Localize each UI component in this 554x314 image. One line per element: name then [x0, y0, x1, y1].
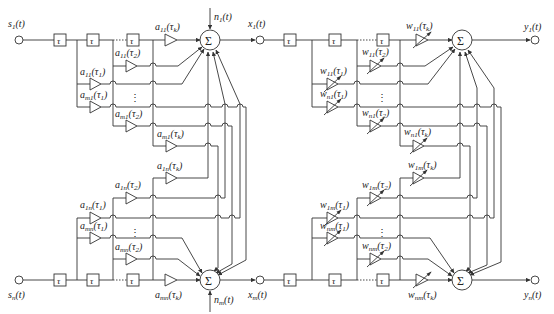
svg-text:wnm(τ1): wnm(τ1) — [320, 220, 350, 233]
svg-text:amn(τk): amn(τk) — [155, 289, 183, 302]
output-node-yn — [531, 276, 539, 284]
demixing-system: τ τ τ w11(τk) Σ y1(t) w11(τ2) w11(τ1) ⋮ — [284, 20, 542, 302]
gain-triangle — [165, 34, 177, 46]
svg-text:w11(τk): w11(τk) — [406, 20, 433, 33]
svg-text:Σ: Σ — [205, 274, 212, 288]
svg-text:sn(t): sn(t) — [8, 289, 26, 302]
svg-text:⋮: ⋮ — [377, 227, 387, 238]
mixing-system: s1(t) τ τ τ a11(τk) Σ n1(t) x1(t) a11(τ2… — [8, 8, 284, 312]
svg-text:Σ: Σ — [457, 34, 464, 48]
output-node-xm — [256, 276, 264, 284]
svg-text:am1(τk): am1(τk) — [157, 128, 185, 141]
svg-text:w11(τ1): w11(τ1) — [320, 65, 348, 78]
svg-text:w1m(τ1): w1m(τ1) — [320, 199, 350, 212]
svg-text:amn(τ2): amn(τ2) — [115, 241, 143, 254]
svg-text:wnm(τ2): wnm(τ2) — [362, 240, 392, 253]
svg-text:Σ: Σ — [205, 34, 212, 48]
input-node-s1 — [15, 36, 23, 44]
input-node-sn — [15, 276, 23, 284]
diagram-canvas: s1(t) τ τ τ a11(τk) Σ n1(t) x1(t) a11(τ2… — [0, 0, 554, 314]
svg-text:⋮: ⋮ — [130, 92, 140, 103]
svg-text:w1m(τ2): w1m(τ2) — [362, 179, 392, 192]
svg-text:a11(τk): a11(τk) — [155, 21, 181, 34]
svg-text:a11(τ2): a11(τ2) — [115, 47, 141, 60]
svg-text:a1n(τk): a1n(τk) — [157, 160, 183, 173]
svg-text:x1(t): x1(t) — [247, 18, 266, 31]
svg-text:⋮: ⋮ — [130, 227, 140, 238]
svg-text:wn1(τ2): wn1(τ2) — [362, 107, 390, 120]
svg-text:w11(τ2): w11(τ2) — [362, 46, 390, 59]
svg-text:wnm(τk): wnm(τk) — [408, 289, 437, 302]
svg-text:am1(τ2): am1(τ2) — [115, 108, 143, 121]
svg-text:amn(τ1): amn(τ1) — [80, 220, 108, 233]
svg-text:xm(t): xm(t) — [247, 289, 268, 302]
svg-text:a11(τ1): a11(τ1) — [80, 66, 106, 79]
label-s1: s1(t) — [8, 18, 26, 31]
output-node-x1 — [256, 36, 264, 44]
svg-text:am1(τ1): am1(τ1) — [80, 89, 108, 102]
svg-text:n1(t): n1(t) — [214, 11, 233, 24]
svg-text:wn1(τ1): wn1(τ1) — [320, 88, 348, 101]
svg-text:w1m(τk): w1m(τk) — [408, 159, 437, 172]
output-node-y1 — [531, 36, 539, 44]
svg-text:y1(t): y1(t) — [523, 21, 542, 34]
svg-text:yn(t): yn(t) — [523, 289, 542, 302]
svg-text:Σ: Σ — [457, 274, 464, 288]
svg-text:nm(t): nm(t) — [214, 294, 234, 307]
svg-text:a1n(τ2): a1n(τ2) — [115, 179, 141, 192]
svg-text:⋮: ⋮ — [377, 92, 387, 103]
svg-text:wn1(τk): wn1(τk) — [404, 126, 432, 139]
svg-text:a1n(τ1): a1n(τ1) — [80, 199, 106, 212]
